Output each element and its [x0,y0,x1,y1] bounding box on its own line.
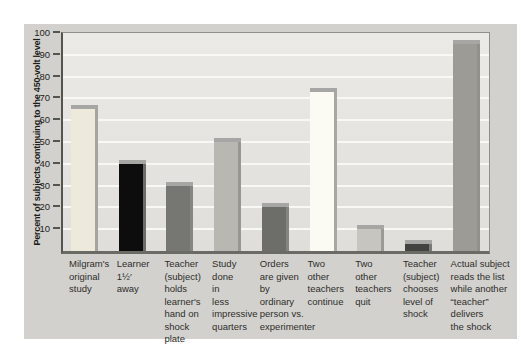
y-tick [53,227,60,229]
y-tick-label: 70 [24,92,50,103]
y-tick-label: 20 [24,201,50,212]
x-category-label: Milgram's original study [69,258,109,296]
y-tick [53,31,60,33]
chart-panel: Percent of subjects continuing to the 45… [24,24,517,339]
bar [71,109,98,251]
bar [166,186,193,251]
x-category-label: Teacher (subject) chooses level of shock [403,258,439,321]
x-category-label: Teacher (subject) holds learner's hand o… [164,258,200,346]
grid-line [63,76,489,78]
x-category-label: Learner 1½′ away [117,258,150,296]
y-tick [53,96,60,98]
figure-page: Percent of subjects continuing to the 45… [0,0,521,357]
y-tick-label: 60 [24,114,50,125]
y-axis: 100908070605040302010 [24,33,60,251]
y-tick-label: 40 [24,158,50,169]
y-tick-label: 80 [24,71,50,82]
y-tick [53,75,60,77]
plot-area [61,32,490,254]
grid-line [63,141,489,143]
x-category-label: Two other teachers continue [308,258,344,308]
x-category-label: Two other teachers quit [355,258,391,308]
grid-line [63,54,489,56]
x-category-label: Actual subject reads the list while anot… [451,258,510,333]
bar [119,164,146,251]
y-tick [53,140,60,142]
bar [405,244,432,251]
y-tick-label: 90 [24,49,50,60]
x-category-label: Study done in less impressive quarters [212,258,257,333]
bar [214,142,241,251]
y-tick-label: 100 [24,27,50,38]
y-tick [53,118,60,120]
grid-line [63,119,489,121]
y-tick [53,184,60,186]
y-tick-label: 30 [24,180,50,191]
y-tick-label: 50 [24,136,50,147]
bar [453,44,480,251]
y-tick [53,162,60,164]
bar [357,229,384,251]
bar [262,207,289,251]
y-tick [53,53,60,55]
bar [310,92,337,251]
y-tick-label: 10 [24,223,50,234]
x-axis-labels: Milgram's original studyLearner 1½′ away… [63,258,517,338]
y-tick [53,205,60,207]
grid-line [63,97,489,99]
